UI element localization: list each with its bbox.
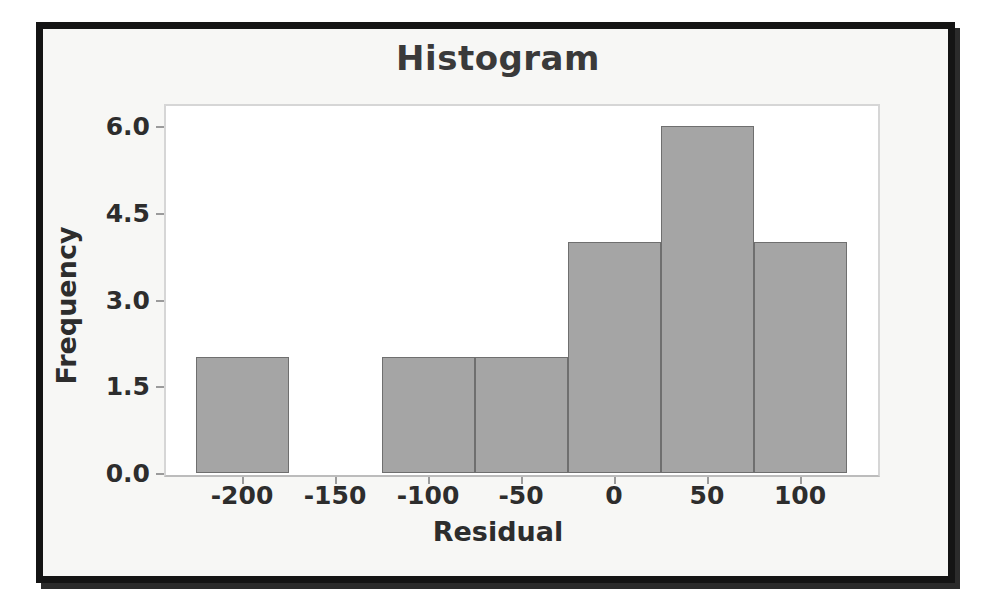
- x-axis-tick-label: 100: [774, 481, 826, 510]
- x-axis-tick-mark: [521, 477, 523, 484]
- y-axis-tick-mark: [156, 473, 164, 475]
- x-axis-tick-mark: [707, 477, 709, 484]
- x-axis-tick-label: -200: [211, 481, 274, 510]
- x-axis-title: Residual: [0, 516, 996, 547]
- x-axis-tick-mark: [428, 477, 430, 484]
- x-axis-tick-mark: [614, 477, 616, 484]
- y-axis-tick-mark: [156, 126, 164, 128]
- x-axis-tick-mark: [800, 477, 802, 484]
- y-axis-tick-mark: [156, 213, 164, 215]
- x-axis-tick-label: -150: [304, 481, 367, 510]
- y-axis-title: Frequency: [51, 196, 82, 416]
- x-axis-tick-label: 0: [605, 481, 622, 510]
- chart-canvas: Histogram 0.01.53.04.56.0 -200-150-100-5…: [0, 0, 996, 613]
- y-axis-tick-mark: [156, 300, 164, 302]
- x-axis-tick-label: -100: [397, 481, 460, 510]
- y-axis-tick-mark: [156, 386, 164, 388]
- histogram-screenshot: Histogram 0.01.53.04.56.0 -200-150-100-5…: [0, 0, 996, 613]
- x-axis-tick-label: -50: [498, 481, 543, 510]
- x-axis-tick-mark: [335, 477, 337, 484]
- x-axis-tick-mark: [242, 477, 244, 484]
- x-axis-tick-label: 50: [690, 481, 725, 510]
